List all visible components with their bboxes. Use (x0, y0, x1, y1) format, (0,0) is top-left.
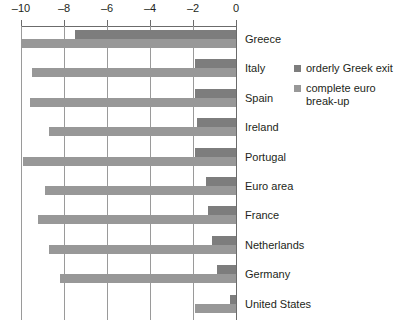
bar-complete-euro-break-up (49, 245, 236, 254)
bar-group (21, 89, 236, 107)
legend: orderly Greek exitcomplete euro break-up (294, 62, 399, 115)
bar-complete-euro-break-up (45, 186, 236, 195)
legend-label: complete euro break-up (306, 82, 399, 108)
plot-area (21, 26, 236, 320)
bar-group (21, 206, 236, 224)
bar-group (21, 295, 236, 313)
bar-complete-euro-break-up (60, 274, 236, 283)
category-label: Germany (245, 268, 290, 280)
category-label: United States (245, 298, 311, 310)
x-tick-label: –6 (101, 2, 113, 14)
zero-gridline (236, 26, 237, 320)
bar-complete-euro-break-up (49, 127, 236, 136)
bar-complete-euro-break-up (21, 39, 236, 48)
legend-label: orderly Greek exit (306, 62, 393, 75)
x-tick-label: –2 (187, 2, 199, 14)
bar-orderly-greek-exit (206, 177, 236, 186)
bar-group (21, 177, 236, 195)
category-label: Portugal (245, 151, 286, 163)
x-tick-label: –4 (144, 2, 156, 14)
legend-item: orderly Greek exit (294, 62, 399, 75)
bar-complete-euro-break-up (23, 157, 236, 166)
category-label: Euro area (245, 180, 293, 192)
bar-orderly-greek-exit (230, 295, 236, 304)
bar-orderly-greek-exit (212, 236, 236, 245)
bar-orderly-greek-exit (208, 206, 236, 215)
x-tick-label: –8 (58, 2, 70, 14)
bar-orderly-greek-exit (75, 30, 236, 39)
bar-group (21, 30, 236, 48)
x-tick-label: –10 (12, 2, 30, 14)
bar-orderly-greek-exit (217, 265, 236, 274)
bar-complete-euro-break-up (30, 98, 236, 107)
bar-group (21, 236, 236, 254)
category-label: Greece (245, 33, 281, 45)
category-label: Netherlands (245, 239, 304, 251)
category-label: Ireland (245, 121, 279, 133)
bar-orderly-greek-exit (195, 89, 236, 98)
chart-container: –10–8–6–4–20 GreeceItalySpainIrelandPort… (0, 0, 401, 328)
bar-orderly-greek-exit (195, 59, 236, 68)
legend-item: complete euro break-up (294, 82, 399, 108)
bar-orderly-greek-exit (195, 148, 236, 157)
bar-group (21, 59, 236, 77)
bar-complete-euro-break-up (32, 68, 236, 77)
bar-group (21, 148, 236, 166)
legend-swatch-icon (294, 65, 301, 72)
category-label: Spain (245, 92, 273, 104)
bar-group (21, 265, 236, 283)
legend-swatch-icon (294, 85, 301, 92)
x-tick-label: 0 (233, 2, 239, 14)
category-label: Italy (245, 62, 265, 74)
bar-group (21, 118, 236, 136)
bar-complete-euro-break-up (38, 215, 236, 224)
bar-complete-euro-break-up (195, 304, 236, 313)
category-label: France (245, 209, 279, 221)
bar-orderly-greek-exit (197, 118, 236, 127)
